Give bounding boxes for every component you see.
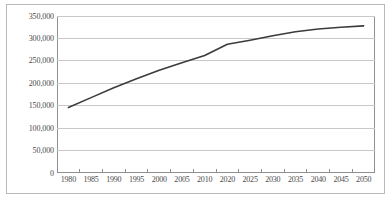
x-tick-label: 2040 [307,175,330,189]
x-tick-label: 1995 [125,175,148,189]
x-axis-ticks-group [57,169,375,173]
y-tick-label: 50,000 [2,146,54,155]
x-tick-label: 1980 [57,175,80,189]
x-tick-label: 2030 [261,175,284,189]
y-tick-label: 150,000 [2,101,54,110]
x-tick-label: 2000 [148,175,171,189]
x-tick-label: 2020 [216,175,239,189]
x-tick-label: 1985 [80,175,103,189]
y-tick-label: 300,000 [2,34,54,43]
x-tick-label: 2025 [239,175,262,189]
y-axis-tick-labels: 050,000100,000150,000200,000250,000300,0… [0,0,54,203]
y-tick-label: 100,000 [2,124,54,133]
x-tick-label: 2035 [284,175,307,189]
x-tick-label: 2045 [330,175,353,189]
gridlines-group [57,16,375,151]
y-tick-label: 250,000 [2,56,54,65]
x-tick-label: 2005 [171,175,194,189]
y-tick-label: 350,000 [2,12,54,21]
x-tick-label: 2010 [193,175,216,189]
x-tick-label: 2050 [352,175,375,189]
y-tick-label: 0 [2,169,54,178]
x-axis-tick-labels: 1980198519901995200020052010202020252030… [57,175,375,189]
y-tick-label: 200,000 [2,79,54,88]
x-tick-label: 1990 [102,175,125,189]
chart-figure: 050,000100,000150,000200,000250,000300,0… [0,0,392,203]
line-chart-plot [57,16,375,173]
